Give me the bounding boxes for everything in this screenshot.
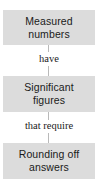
connector-line-measured-to-have [48,45,49,52]
connector-line-significant-to-that-require [48,112,49,120]
flowchart-node-rounding-off: Rounding off answers [3,143,95,179]
flowchart-node-measured: Measured numbers [3,10,95,45]
node-rounding-line-2: answers [29,161,69,174]
edge-label-have: have [0,53,98,65]
edge-label-that-require: that require [0,120,98,132]
node-measured-line-1: Measured [25,15,73,28]
flowchart-node-significant-figures: Significant figures [3,76,95,112]
node-significant-line-1: Significant [24,81,74,94]
node-significant-line-2: figures [33,94,65,107]
connector-line-have-to-significant [48,66,49,76]
node-rounding-line-1: Rounding off [19,148,80,161]
flowchart-diagram: Measured numbers have Significant figure… [0,0,98,190]
node-measured-line-2: numbers [28,28,70,41]
connector-line-that-require-to-rounding [48,133,49,143]
